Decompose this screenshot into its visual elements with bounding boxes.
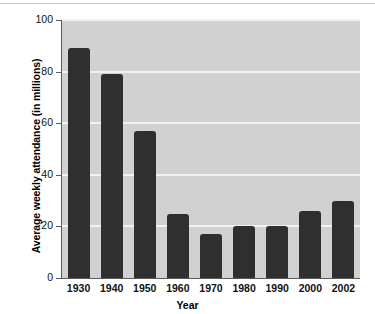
y-axis-line bbox=[61, 20, 62, 279]
top-divider bbox=[0, 3, 375, 4]
y-tick-label: 20 bbox=[13, 220, 53, 231]
bar-1930 bbox=[68, 48, 90, 278]
y-tick-label: 0 bbox=[13, 272, 53, 283]
bar-1990 bbox=[266, 226, 288, 278]
bar-1950 bbox=[134, 131, 156, 278]
bar-2002 bbox=[332, 201, 354, 278]
y-tick-label: 80 bbox=[13, 66, 53, 77]
bar-2000 bbox=[299, 211, 321, 278]
x-tick-label-2002: 2002 bbox=[323, 282, 363, 294]
y-tick-mark bbox=[56, 175, 62, 176]
bar-1980 bbox=[233, 226, 255, 278]
bar-chart-figure: Average weekly attendance (in millions) … bbox=[0, 0, 375, 314]
y-tick-mark bbox=[56, 278, 62, 279]
y-tick-mark bbox=[56, 123, 62, 124]
y-tick-mark bbox=[56, 72, 62, 73]
x-axis-line bbox=[61, 278, 360, 279]
gridline bbox=[62, 19, 360, 21]
y-tick-label: 60 bbox=[13, 117, 53, 128]
x-axis-title: Year bbox=[0, 299, 375, 311]
bar-1940 bbox=[101, 74, 123, 278]
y-tick-mark bbox=[56, 226, 62, 227]
y-tick-mark bbox=[56, 20, 62, 21]
y-tick-label: 40 bbox=[13, 169, 53, 180]
y-tick-label: 100 bbox=[13, 14, 53, 25]
gridline bbox=[62, 71, 360, 73]
bar-1960 bbox=[167, 214, 189, 279]
bar-1970 bbox=[200, 234, 222, 278]
